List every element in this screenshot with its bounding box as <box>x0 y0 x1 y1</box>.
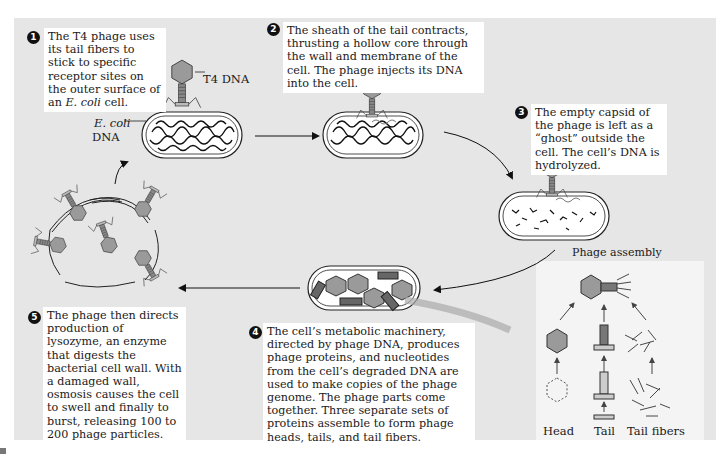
step-1-caption: The T4 phage uses its tail fibers to sti… <box>44 28 166 112</box>
t4-dna-label: T4 DNA <box>203 73 249 86</box>
cell-step4 <box>308 266 420 310</box>
step-5-caption: The phage then directs production of lys… <box>43 307 186 444</box>
step-4-caption: The cell’s metabolic machinery, directed… <box>263 323 475 447</box>
tail-fibers-label: Tail fibers <box>627 425 685 438</box>
step-3-marker: 3 <box>515 106 528 119</box>
head-label: Head <box>543 425 574 438</box>
lysis-burst <box>31 181 167 287</box>
ecoli-label: E. coli <box>94 117 130 130</box>
step-2-marker: 2 <box>267 23 280 36</box>
tail-label: Tail <box>594 425 615 438</box>
arrow-3-to-4 <box>435 250 555 290</box>
step-3-caption: The empty capsid of the phage is left as… <box>531 104 667 175</box>
phage-assembly-title: Phage assembly <box>572 246 662 259</box>
step-5-marker: 5 <box>28 311 41 324</box>
step-1-marker: 1 <box>27 31 40 44</box>
phage-assembly-art <box>547 274 670 419</box>
page-edge-mark <box>0 448 6 454</box>
step-2-caption: The sheath of the tail contracts, thrust… <box>283 22 484 93</box>
arrow-2-to-3 <box>444 132 512 178</box>
ecoli-dna-label: DNA <box>92 131 120 144</box>
step-4-marker: 4 <box>249 326 262 339</box>
arrow-5-to-1 <box>115 162 127 184</box>
